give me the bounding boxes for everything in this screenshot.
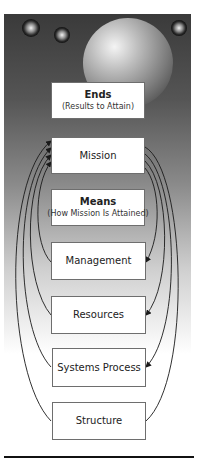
ends-box: Ends (Results to Attain) xyxy=(51,82,145,119)
means-box: Means (How Mission Is Attained) xyxy=(51,189,145,226)
bottom-rule-divider xyxy=(4,456,194,458)
diagram-graphics xyxy=(0,0,201,461)
arrow-structure-to-mission xyxy=(16,141,51,421)
ends-subtitle: (Results to Attain) xyxy=(62,101,134,112)
systems-process-box: Systems Process xyxy=(52,348,146,387)
ends-title: Ends xyxy=(84,89,111,101)
resources-box: Resources xyxy=(51,296,146,334)
right-cascade-arrows xyxy=(145,147,178,421)
means-title: Means xyxy=(80,196,117,208)
small-sphere-icon xyxy=(171,20,187,36)
small-sphere-icon xyxy=(54,27,70,43)
structure-box: Structure xyxy=(52,402,146,440)
mission-title: Mission xyxy=(79,150,116,162)
resources-title: Resources xyxy=(73,309,124,321)
structure-title: Structure xyxy=(76,415,123,427)
systems-process-title: Systems Process xyxy=(57,362,141,374)
small-sphere-icon xyxy=(22,19,40,37)
means-subtitle: (How Mission Is Attained) xyxy=(47,208,148,219)
left-feedback-arrows xyxy=(16,141,51,421)
arrow-mission-to-structure xyxy=(145,147,178,421)
management-box: Management xyxy=(51,242,146,280)
mission-box: Mission xyxy=(51,137,145,174)
management-title: Management xyxy=(66,255,132,267)
